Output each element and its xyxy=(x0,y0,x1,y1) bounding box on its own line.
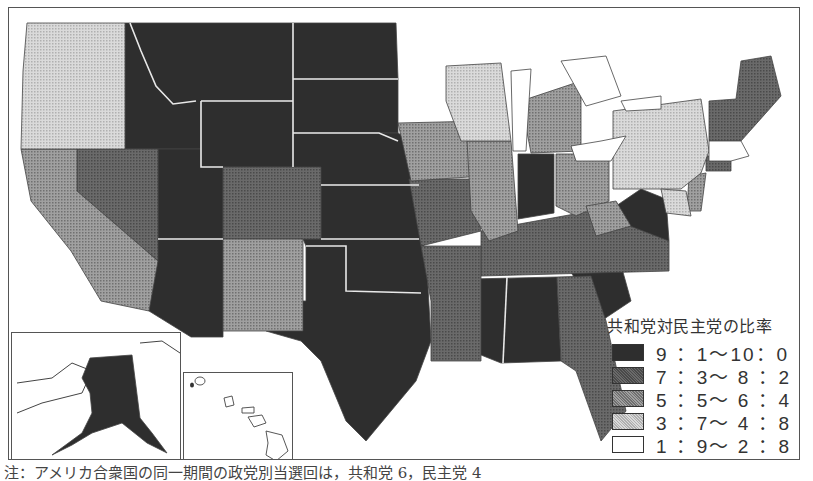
legend-item: 3 ：7〜 4 ：8 xyxy=(607,410,797,433)
legend-swatch-white xyxy=(612,436,644,453)
legend-swatch-darkest xyxy=(612,344,644,361)
legend-label: 1 ：9〜 2 ：8 xyxy=(656,431,791,458)
states-white xyxy=(709,141,749,161)
map-frame: 共和党対民主党の比率 9 ：1〜10：0 7 ：3〜 8 ：2 5 ：5〜 6 … xyxy=(8,7,800,460)
legend-item: 1 ：9〜 2 ：8 xyxy=(607,433,797,456)
footnote: 注：アメリカ合衆国の同一期間の政党別当選回は，共和党 6，民主党 4 xyxy=(4,463,482,481)
legend-item: 9 ：1〜10：0 xyxy=(607,341,797,364)
hawaii-inset xyxy=(183,372,293,460)
legend-swatch-dark xyxy=(612,367,644,384)
alaska-state xyxy=(52,355,167,455)
alaska-inset xyxy=(11,332,181,460)
legend-item: 5 ：5〜 6 ：4 xyxy=(607,387,797,410)
legend-title: 共和党対民主党の比率 xyxy=(607,313,797,337)
legend-item: 7 ：3〜 8 ：2 xyxy=(607,364,797,387)
hawaii-state xyxy=(184,373,294,460)
legend-swatch-mid xyxy=(612,390,644,407)
legend: 共和党対民主党の比率 9 ：1〜10：0 7 ：3〜 8 ：2 5 ：5〜 6 … xyxy=(607,313,797,456)
legend-swatch-light xyxy=(612,413,644,430)
